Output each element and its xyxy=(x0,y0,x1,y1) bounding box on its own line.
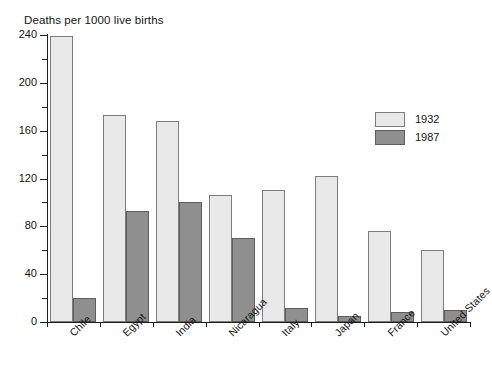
y-tick-major xyxy=(40,131,47,132)
bar-japan-1932 xyxy=(315,176,338,322)
x-tick xyxy=(100,322,101,327)
legend-label-1932: 1932 xyxy=(415,113,439,125)
bar-egypt-1987 xyxy=(126,211,149,322)
legend-swatch-1932 xyxy=(375,112,405,127)
y-tick-major xyxy=(40,83,47,84)
y-tick-label: 200 xyxy=(12,76,37,88)
bar-india-1987 xyxy=(179,202,202,322)
y-tick-label: 80 xyxy=(12,219,37,231)
y-tick-major xyxy=(40,322,47,323)
bar-egypt-1932 xyxy=(103,115,126,322)
x-tick xyxy=(206,322,207,327)
plot-area xyxy=(47,35,470,322)
y-tick-label: 120 xyxy=(12,172,37,184)
legend-swatch-1987 xyxy=(375,130,405,145)
legend-label-1987: 1987 xyxy=(415,131,439,143)
y-tick-major xyxy=(40,226,47,227)
y-tick-label: 240 xyxy=(12,28,37,40)
x-tick xyxy=(153,322,154,327)
y-tick-label: 160 xyxy=(12,124,37,136)
y-tick-major xyxy=(40,179,47,180)
bar-india-1932 xyxy=(156,121,179,322)
y-tick-label: 40 xyxy=(12,267,37,279)
y-tick-major xyxy=(40,35,47,36)
bar-france-1932 xyxy=(368,231,391,322)
bar-nicaragua-1932 xyxy=(209,195,232,322)
x-tick xyxy=(364,322,365,327)
x-tick xyxy=(417,322,418,327)
x-tick xyxy=(259,322,260,327)
chart-title: Deaths per 1000 live births xyxy=(24,14,164,26)
bar-chile-1932 xyxy=(50,36,73,322)
x-tick xyxy=(47,322,48,327)
bar-united-states-1932 xyxy=(421,250,444,322)
y-tick-label: 0 xyxy=(12,315,37,327)
y-tick-major xyxy=(40,274,47,275)
x-tick xyxy=(470,322,471,327)
x-tick xyxy=(311,322,312,327)
